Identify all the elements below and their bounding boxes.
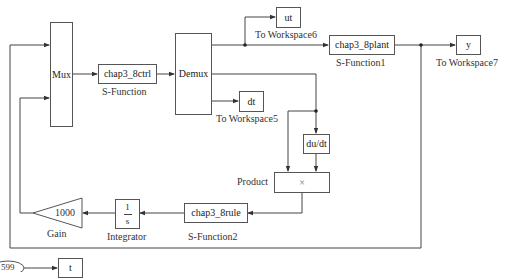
demux-label: Demux bbox=[179, 69, 208, 79]
derivative-block[interactable]: du/dt bbox=[303, 134, 330, 154]
gain-caption: Gain bbox=[47, 229, 66, 239]
derivative-block-text: du/dt bbox=[306, 139, 327, 149]
wire-gain-mux bbox=[20, 98, 49, 213]
integrator-caption: Integrator bbox=[107, 232, 146, 242]
product-block[interactable]: × bbox=[274, 172, 330, 193]
gain-value[interactable]: 1000 bbox=[55, 208, 75, 218]
ctrl-block-text: chap3_8ctrl bbox=[104, 69, 151, 79]
rule-sfunction-block[interactable]: chap3_8rule bbox=[184, 203, 248, 223]
t-block-text: t bbox=[69, 263, 72, 273]
multiply-icon: × bbox=[299, 178, 305, 188]
integrator-denominator: s bbox=[126, 217, 130, 226]
junction-dot bbox=[419, 43, 423, 47]
product-caption: Product bbox=[237, 177, 268, 187]
y-block-text: y bbox=[466, 40, 471, 50]
mux-label: Mux bbox=[52, 70, 71, 80]
fraction-bar bbox=[124, 214, 132, 215]
t-workspace-block[interactable]: t bbox=[58, 258, 83, 278]
dt-workspace-block[interactable]: dt bbox=[239, 91, 264, 112]
junction-dot bbox=[314, 109, 318, 113]
integrator-transfer-function: 1 s bbox=[124, 203, 132, 226]
rule-caption: S-Function2 bbox=[188, 232, 237, 242]
integrator-block[interactable]: 1 s bbox=[115, 199, 140, 229]
ctrl-caption: S-Function bbox=[102, 87, 146, 97]
plant-sfunction-block[interactable]: chap3_8plant bbox=[329, 35, 395, 55]
clock-value[interactable]: 599 bbox=[1, 263, 15, 272]
y-workspace-block[interactable]: y bbox=[456, 35, 481, 55]
ctrl-sfunction-block[interactable]: chap3_8ctrl bbox=[98, 64, 157, 84]
junction-dot bbox=[243, 43, 247, 47]
integrator-numerator: 1 bbox=[125, 203, 130, 212]
mux-block[interactable]: Mux bbox=[50, 22, 73, 127]
plant-block-text: chap3_8plant bbox=[335, 40, 389, 50]
wire-product-rule bbox=[248, 192, 302, 213]
ut-caption: To Workspace6 bbox=[255, 30, 317, 40]
ut-block-text: ut bbox=[285, 13, 293, 23]
y-caption: To Workspace7 bbox=[436, 58, 498, 68]
dt-block-text: dt bbox=[248, 97, 256, 107]
rule-block-text: chap3_8rule bbox=[191, 208, 240, 218]
dt-caption: To Workspace5 bbox=[216, 114, 278, 124]
demux-block[interactable]: Demux bbox=[175, 33, 212, 115]
plant-caption: S-Function1 bbox=[336, 58, 385, 68]
ut-workspace-block[interactable]: ut bbox=[276, 7, 301, 28]
